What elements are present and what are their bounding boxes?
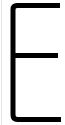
letter-e-glyph <box>0 0 65 125</box>
letter-e-stroke <box>13 6 61 120</box>
